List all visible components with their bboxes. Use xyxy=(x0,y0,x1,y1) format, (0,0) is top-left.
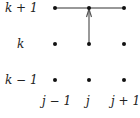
row-label-k-plus-1: k + 1 xyxy=(5,1,38,15)
col-label-j: j xyxy=(83,94,90,108)
row-label-k: k xyxy=(17,37,24,51)
row-label-k-minus-1: k − 1 xyxy=(5,73,38,87)
col-label-j-plus-1: j + 1 xyxy=(108,94,140,108)
stencil-diagram: k + 1 k k − 1 j − 1 j j + 1 xyxy=(0,0,140,118)
col-label-j-minus-1: j − 1 xyxy=(39,94,71,108)
